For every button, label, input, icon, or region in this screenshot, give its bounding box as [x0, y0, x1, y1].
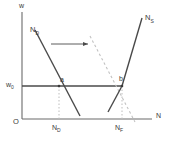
labor-demand-initial-curve	[35, 30, 80, 116]
point-b-label: b	[119, 75, 123, 82]
point-a-label: a	[60, 76, 64, 83]
x-tick-nf-label-sub: F	[120, 127, 123, 133]
labor-market-diagram: w N O w0 ND NS a b ND NF	[0, 0, 170, 150]
x-axis-label: N	[156, 112, 161, 119]
labor-supply-curve	[122, 18, 142, 86]
point-b-marker	[121, 85, 124, 88]
wage-level-label-sub: 0	[11, 84, 14, 90]
x-tick-nd-label-sub: D	[57, 127, 61, 133]
y-axis-label: w	[19, 2, 24, 9]
labor-supply-label: NS	[145, 14, 154, 24]
shift-arrow-head	[83, 42, 88, 46]
wage-level-label: w0	[6, 81, 14, 90]
labor-demand-initial-label: ND	[30, 26, 39, 36]
labor-supply-curve-lower	[108, 86, 122, 112]
labor-supply-label-sub: S	[150, 18, 153, 24]
point-a-marker	[58, 85, 61, 88]
labor-demand-initial-label-sub: D	[35, 30, 39, 36]
origin-label: O	[13, 118, 19, 126]
labor-demand-shifted-curve	[90, 36, 135, 122]
x-tick-nf-label: NF	[115, 124, 123, 133]
x-tick-nd-label: ND	[52, 124, 61, 133]
